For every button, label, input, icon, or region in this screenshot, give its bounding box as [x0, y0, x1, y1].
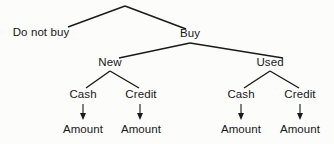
edge-used-to-cash — [244, 71, 270, 88]
edge-buy-to-new — [119, 43, 190, 58]
down-arrow-icon-3 — [238, 104, 244, 120]
edge-root-to-buy — [125, 6, 186, 29]
edge-root-to-do-not-buy — [68, 6, 125, 27]
edge-new-to-credit — [110, 71, 139, 88]
leaf-amount-new-cash: Amount — [63, 124, 103, 136]
node-buy: Buy — [180, 28, 200, 40]
node-used: Used — [256, 57, 283, 69]
decision-tree-diagram: Do not buy Buy New Used Cash Credit Cash… — [0, 0, 334, 144]
edge-used-to-credit — [270, 71, 299, 88]
node-new: New — [98, 57, 121, 69]
node-new-cash: Cash — [69, 89, 96, 101]
down-arrow-icon-1 — [80, 104, 86, 120]
node-used-credit: Credit — [284, 89, 315, 101]
down-arrow-icon-4 — [297, 104, 303, 120]
node-new-credit: Credit — [125, 89, 156, 101]
leaf-amount-used-credit: Amount — [280, 124, 320, 136]
leaf-amount-used-cash: Amount — [221, 124, 261, 136]
down-arrow-icon-2 — [137, 104, 143, 120]
edge-new-to-cash — [86, 71, 110, 88]
node-do-not-buy: Do not buy — [13, 27, 70, 39]
node-used-cash: Cash — [227, 89, 254, 101]
leaf-amount-new-credit: Amount — [121, 124, 161, 136]
